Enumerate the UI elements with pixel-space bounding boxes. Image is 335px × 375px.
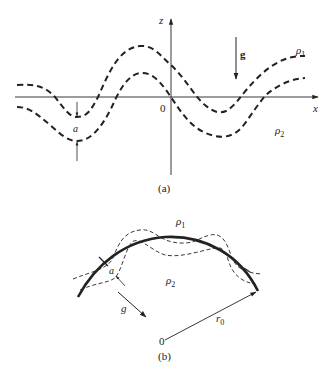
- gravity-label-a: g: [240, 48, 246, 60]
- radius-label: r0: [216, 312, 224, 327]
- rho2-label-a: ρ2: [274, 124, 284, 139]
- panel-b: ρ1 ρ2 a g r0 0 (b): [73, 215, 262, 363]
- x-axis-label: x: [312, 102, 318, 114]
- figure: z x 0 g a ρ1 ρ2 (a) ρ1 ρ2: [0, 0, 335, 375]
- gravity-label-b: g: [121, 302, 127, 314]
- thickness-label-a: a: [73, 123, 78, 134]
- z-axis-label: z: [158, 14, 164, 26]
- origin-label-b: 0: [159, 335, 165, 347]
- caption-b: (b): [158, 350, 171, 363]
- rho1-label-b: ρ1: [175, 215, 185, 230]
- radius-vector: [165, 292, 256, 340]
- diagram-canvas: z x 0 g a ρ1 ρ2 (a) ρ1 ρ2: [0, 0, 335, 375]
- origin-label-a: 0: [160, 102, 166, 114]
- panel-a: z x 0 g a ρ1 ρ2 (a): [15, 14, 318, 195]
- thickness-label-b: a: [109, 265, 114, 276]
- caption-a: (a): [158, 182, 171, 195]
- rho2-label-b: ρ2: [165, 274, 175, 289]
- thickness-arrow-b: [116, 276, 125, 286]
